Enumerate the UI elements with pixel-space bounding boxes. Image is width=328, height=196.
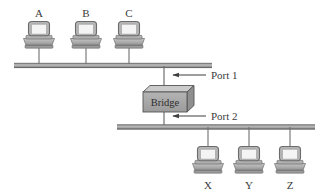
lower-segment: X Y Z <box>117 125 315 191</box>
host-y-label: Y <box>245 179 253 191</box>
bridge-node[interactable]: Bridge <box>143 86 194 113</box>
host-b-icon <box>71 22 102 49</box>
host-z-icon <box>275 147 306 174</box>
host-c-icon <box>114 22 145 49</box>
host-b-label: B <box>82 7 89 19</box>
upper-segment: A B C <box>14 7 212 68</box>
port-1-label: Port 1 <box>211 69 238 81</box>
host-z-label: Z <box>287 179 294 191</box>
port-2-label: Port 2 <box>211 110 238 122</box>
host-y-icon <box>234 147 265 174</box>
host-a-icon <box>24 22 55 49</box>
host-x-label: X <box>204 179 212 191</box>
bridge-top-face <box>143 86 194 93</box>
diagram-canvas: A B C Bridge Port 1 Port 2 <box>0 0 328 196</box>
bus-upper <box>14 63 212 68</box>
host-c-label: C <box>125 7 132 19</box>
network-diagram: A B C Bridge Port 1 Port 2 <box>0 0 328 196</box>
host-x-icon <box>193 147 224 174</box>
bus-lower <box>117 125 315 130</box>
port-1-callout: Port 1 <box>173 69 238 81</box>
host-a-label: A <box>35 7 43 19</box>
bridge-label: Bridge <box>151 97 180 108</box>
